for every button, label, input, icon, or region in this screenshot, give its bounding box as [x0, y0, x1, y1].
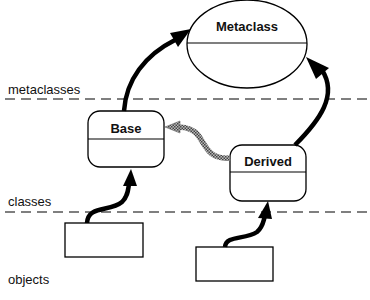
- metaclass-diagram: metaclasses classes objects Metaclass Ba…: [0, 0, 370, 300]
- metaclass-label: Metaclass: [216, 19, 278, 34]
- metaclass-node: Metaclass: [187, 0, 307, 88]
- object-node-1: [65, 223, 143, 257]
- edge-derived-to-base: [165, 121, 230, 158]
- edge-object2-to-derived: [225, 201, 272, 247]
- layer-label-classes: classes: [8, 194, 52, 209]
- derived-label: Derived: [244, 154, 292, 169]
- object-node-2: [196, 247, 273, 281]
- layer-label-objects: objects: [8, 272, 50, 287]
- derived-node: Derived: [230, 145, 306, 201]
- base-node: Base: [88, 111, 164, 167]
- layer-label-metaclasses: metaclasses: [8, 82, 81, 97]
- base-label: Base: [110, 121, 141, 136]
- edge-object1-to-base: [87, 169, 137, 223]
- edge-derived-to-metaclass: [295, 57, 329, 145]
